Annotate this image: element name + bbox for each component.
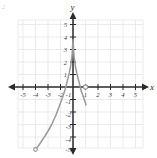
x-tick-label: 5 [134,91,138,98]
y-tick-label: 3 [63,46,68,53]
corner-mark: 2 [2,3,6,11]
x-tick-label: -4 [33,91,39,98]
grid-lines [18,20,143,148]
y-tick-label: -5 [66,146,72,153]
graph-figure: -5 -4 -3 -2 -1 1 2 3 4 5 5 4 3 2 1 -1 -2… [0,0,157,158]
y-tick-label: -1 [66,98,72,105]
x-axis [8,84,149,91]
x-tick-label: -5 [20,91,26,98]
y-axis [70,12,77,155]
coordinate-plane-svg: -5 -4 -3 -2 -1 1 2 3 4 5 5 4 3 2 1 -1 -2… [0,0,157,158]
x-tick-label: -3 [45,91,51,98]
y-axis-arrow-up [70,12,77,19]
x-tick-label: 1 [84,91,87,98]
x-axis-label: x [149,82,154,92]
y-axis-label: y [70,2,75,12]
y-tick-label: 1 [64,71,67,78]
y-tick-label: -2 [66,111,72,118]
right-endpoint-open-circle [83,85,87,89]
y-tick-label: -4 [66,136,72,143]
y-tick-label: -3 [66,123,72,130]
x-tick-labels: -5 -4 -3 -2 -1 1 2 3 4 5 [20,91,138,98]
x-tick-label: 4 [121,91,125,98]
x-tick-label: 3 [108,91,113,98]
x-tick-label: 2 [96,91,100,98]
x-axis-arrow-right [142,84,149,91]
x-axis-arrow-left [8,84,15,91]
x-tick-label: -1 [66,91,72,98]
left-endpoint-open-circle [34,148,38,152]
